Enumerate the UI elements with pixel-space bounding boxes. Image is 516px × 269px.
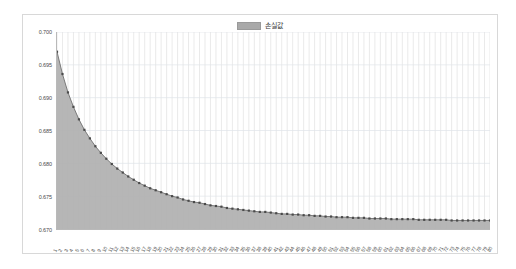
data-point-marker bbox=[335, 216, 337, 218]
data-point-marker bbox=[434, 219, 436, 221]
data-point-marker bbox=[412, 218, 414, 220]
data-point-marker bbox=[57, 51, 58, 53]
data-point-marker bbox=[297, 213, 299, 215]
data-point-marker bbox=[467, 219, 469, 221]
data-point-marker bbox=[253, 210, 255, 212]
data-point-marker bbox=[472, 219, 474, 221]
data-point-marker bbox=[324, 215, 326, 217]
y-axis-tick-label: 0.700 bbox=[39, 29, 52, 35]
data-point-marker bbox=[248, 210, 250, 212]
data-point-marker bbox=[489, 219, 490, 221]
x-axis-tick-label: 80 bbox=[486, 246, 494, 253]
legend-swatch-icon bbox=[237, 22, 261, 30]
data-point-marker bbox=[270, 211, 272, 213]
y-axis-tick-label: 0.675 bbox=[39, 194, 52, 200]
data-point-marker bbox=[111, 163, 113, 165]
data-point-marker bbox=[122, 171, 124, 173]
y-axis-tick-label: 0.680 bbox=[39, 161, 52, 167]
data-point-marker bbox=[226, 207, 228, 209]
data-point-marker bbox=[483, 219, 485, 221]
data-point-marker bbox=[155, 189, 157, 191]
data-point-marker bbox=[385, 217, 387, 219]
data-point-marker bbox=[171, 195, 173, 197]
data-point-marker bbox=[67, 91, 69, 93]
data-point-marker bbox=[429, 219, 431, 221]
data-point-marker bbox=[105, 158, 107, 160]
data-point-marker bbox=[401, 218, 403, 220]
data-point-marker bbox=[346, 216, 348, 218]
series-fill bbox=[57, 52, 490, 229]
data-point-marker bbox=[78, 118, 80, 120]
data-point-marker bbox=[198, 202, 200, 204]
data-point-marker bbox=[445, 219, 447, 221]
data-point-marker bbox=[187, 200, 189, 202]
data-point-marker bbox=[138, 182, 140, 184]
data-point-marker bbox=[374, 217, 376, 219]
data-point-marker bbox=[242, 209, 244, 211]
chart-legend: 손실값 bbox=[23, 19, 497, 33]
data-point-marker bbox=[176, 196, 178, 198]
y-axis-tick-label: 0.690 bbox=[39, 95, 52, 101]
data-point-marker bbox=[461, 219, 463, 221]
data-point-marker bbox=[418, 219, 420, 221]
data-point-marker bbox=[182, 198, 184, 200]
data-point-marker bbox=[133, 179, 135, 181]
chart-widget: 손실값 0.7000.6950.6900.6850.6800.6750.670 … bbox=[22, 14, 498, 254]
data-point-marker bbox=[379, 217, 381, 219]
data-point-marker bbox=[100, 152, 102, 154]
data-point-marker bbox=[319, 215, 321, 217]
y-axis-tick-label: 0.695 bbox=[39, 62, 52, 68]
data-point-marker bbox=[72, 106, 74, 108]
data-point-marker bbox=[451, 219, 453, 221]
data-point-marker bbox=[456, 219, 458, 221]
data-point-marker bbox=[193, 201, 195, 203]
data-point-marker bbox=[116, 167, 118, 169]
x-axis: 1234567891011121314151617181920212223242… bbox=[56, 231, 490, 253]
y-axis-tick-label: 0.685 bbox=[39, 128, 52, 134]
data-point-marker bbox=[357, 217, 359, 219]
data-point-marker bbox=[407, 218, 409, 220]
data-point-marker bbox=[281, 213, 283, 215]
data-point-marker bbox=[144, 185, 146, 187]
data-point-marker bbox=[264, 211, 266, 213]
data-point-marker bbox=[160, 191, 162, 193]
data-point-marker bbox=[209, 204, 211, 206]
data-point-marker bbox=[330, 215, 332, 217]
data-point-marker bbox=[220, 206, 222, 208]
legend-label: 손실값 bbox=[265, 22, 283, 30]
data-point-marker bbox=[127, 175, 129, 177]
data-point-marker bbox=[423, 219, 425, 221]
data-point-marker bbox=[215, 205, 217, 207]
data-point-marker bbox=[259, 211, 261, 213]
data-point-marker bbox=[478, 219, 480, 221]
series-area-chart bbox=[57, 32, 490, 229]
data-point-marker bbox=[308, 214, 310, 216]
plot-area bbox=[56, 32, 490, 230]
data-point-marker bbox=[303, 214, 305, 216]
data-point-marker bbox=[275, 212, 277, 214]
data-point-marker bbox=[363, 217, 365, 219]
data-point-marker bbox=[204, 203, 206, 205]
data-point-marker bbox=[352, 217, 354, 219]
data-point-marker bbox=[61, 73, 63, 75]
data-point-marker bbox=[396, 218, 398, 220]
data-point-marker bbox=[231, 208, 233, 210]
y-axis: 0.7000.6950.6900.6850.6800.6750.670 bbox=[23, 32, 55, 230]
data-point-marker bbox=[440, 219, 442, 221]
data-point-marker bbox=[368, 217, 370, 219]
data-point-marker bbox=[149, 187, 151, 189]
data-point-marker bbox=[237, 208, 239, 210]
data-point-marker bbox=[94, 145, 96, 147]
data-point-marker bbox=[314, 215, 316, 217]
data-point-marker bbox=[83, 129, 85, 131]
data-point-marker bbox=[341, 216, 343, 218]
data-point-marker bbox=[390, 218, 392, 220]
data-point-marker bbox=[292, 213, 294, 215]
data-point-marker bbox=[89, 137, 91, 139]
y-axis-tick-label: 0.670 bbox=[39, 227, 52, 233]
data-point-marker bbox=[166, 193, 168, 195]
plot-shell: 0.7000.6950.6900.6850.6800.6750.670 1234… bbox=[23, 32, 499, 253]
data-point-marker bbox=[286, 213, 288, 215]
